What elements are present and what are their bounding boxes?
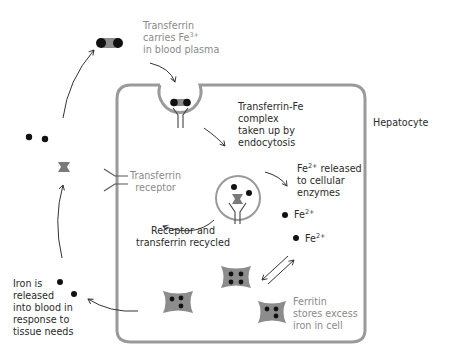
arrow-to-transferrin (63, 50, 94, 118)
transferrin-fe-complex-icon (96, 38, 123, 48)
arrow-fe-release (265, 172, 287, 186)
fe2-dot-a (282, 212, 288, 218)
label-endocytosis: Transferrin-Fe complex taken up by endoc… (238, 101, 303, 149)
arrow-release-to-blood (88, 299, 138, 311)
label-transferrin-carries: Transferrin carries Fe3+ in blood plasma (143, 20, 219, 56)
label-transferrin-receptor: Transferrin receptor (130, 170, 181, 194)
arrow-to-ferritin (262, 256, 288, 280)
apo-transferrin-icon (58, 162, 70, 172)
arrow-to-endosome (204, 128, 225, 146)
plasma-iron-dots-icon (26, 134, 48, 142)
label-fe2-b: Fe2+ (305, 233, 326, 245)
label-fe2-a: Fe2+ (294, 209, 315, 221)
arrow-to-pit (150, 63, 175, 82)
label-iron-released: Iron is released into blood in response … (13, 278, 73, 338)
ferritin-icon-b (163, 291, 193, 313)
label-fe-released: Fe2+ released to cellular enzymes (297, 163, 362, 199)
ferritin-icon-a (221, 266, 251, 288)
ferritin-icon-c (258, 301, 286, 323)
label-hepatocyte: Hepatocyte (373, 117, 428, 129)
label-recycled: Receptor and transferrin recycled (136, 225, 230, 249)
endosome-icon (216, 176, 260, 224)
arrow-from-ferritin (268, 260, 294, 284)
label-ferritin: Ferritin stores excess iron in cell (293, 296, 358, 332)
arrow-blood-up (58, 185, 63, 258)
fe2-dot-b (293, 235, 299, 241)
